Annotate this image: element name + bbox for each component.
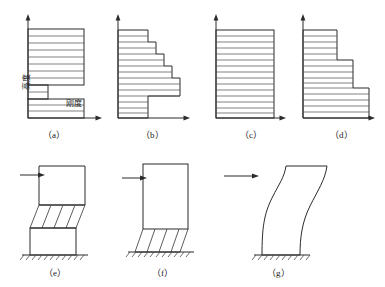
diagram-f-column-2 [147,229,155,252]
diagram-f-fixed-support [126,252,194,257]
diagram-f-upper-block [143,164,188,229]
chart-b-profile-outline [118,30,180,118]
caption-f: （f） [152,266,173,279]
structural-stiffness-figure: 高度 刚度 （a） （b） （c） （d） （e） （f） （g） [0,0,385,287]
diagram-f-column-5 [180,229,188,252]
diagram-e-column-3 [54,205,63,228]
diagram-f [122,164,194,257]
diagram-e-column-2 [42,205,51,228]
diagram-e-soft-storey [30,205,85,228]
diagram-g-deformed-shape [262,166,327,255]
diagram-e [20,166,88,260]
chart-c-y-axis-arrowhead [214,14,219,21]
chart-c-uniform-block [216,30,274,118]
caption-g: （g） [267,266,290,279]
figure-canvas [0,0,385,287]
diagram-f-column-3 [159,229,167,252]
caption-b: （b） [141,128,164,141]
diagram-f-column-4 [171,229,179,252]
diagram-e-lower-block [30,228,76,255]
chart-b-x-axis-arrowhead [184,116,191,121]
diagram-g-load-arrow-head [252,173,259,178]
chart-d-profile-outline [303,30,369,118]
diagram-f-column-1 [135,229,143,252]
diagram-e-column-5 [76,205,85,228]
chart-d-y-axis-arrowhead [301,14,306,21]
diagram-f-soft-storey [135,229,188,252]
chart-d-bars [303,30,369,118]
chart-c-bars [216,30,274,118]
chart-b-y-axis-arrowhead [116,14,121,21]
caption-a: （a） [43,128,65,141]
diagram-e-column-4 [66,205,75,228]
chart-a [26,14,102,120]
caption-c: （c） [240,128,262,141]
caption-e: （e） [44,266,66,279]
caption-d: （d） [330,128,353,141]
chart-c-x-axis-arrowhead [280,116,287,121]
chart-a-y-axis-arrowhead [26,14,31,21]
chart-c [214,14,286,120]
chart-a-x-axis-arrowhead [96,116,103,121]
chart-b-bars [118,30,180,118]
diagram-e-upper-block [39,166,85,205]
diagram-g-fixed-support [252,255,310,260]
x-axis-label-stiffness: 刚度 [66,97,82,108]
diagram-g [224,166,327,260]
diagram-e-fixed-support [20,255,88,260]
chart-d [301,14,375,120]
diagram-e-column-1 [30,205,39,228]
chart-b [116,14,190,120]
y-axis-label-height: 高度 [20,74,31,90]
